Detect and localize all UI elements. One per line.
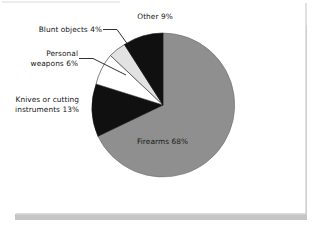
pie-label-firearms: Firearms 68% bbox=[137, 137, 188, 147]
pie-label-other: Other 9% bbox=[120, 12, 190, 22]
pie-label-knives-line2: instruments 13% bbox=[0, 105, 79, 115]
pie-label-knives-line1: Knives or cutting bbox=[0, 95, 79, 105]
pie-label-personal-weapons-line1: Personal bbox=[6, 49, 78, 59]
pie-label-personal-weapons-line2: weapons 6% bbox=[6, 59, 78, 69]
figure-root: Other 9% Blunt objects 4% Personal weapo… bbox=[0, 0, 329, 228]
pie-label-blunt-objects: Blunt objects 4% bbox=[6, 25, 102, 35]
